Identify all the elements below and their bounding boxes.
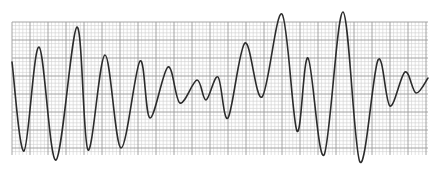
ecg-strip xyxy=(0,0,436,169)
